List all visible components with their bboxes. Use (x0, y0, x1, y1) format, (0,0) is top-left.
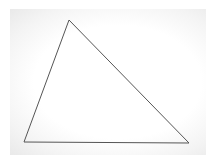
triangle-shape (24, 20, 189, 143)
triangle-drawing (0, 0, 216, 161)
